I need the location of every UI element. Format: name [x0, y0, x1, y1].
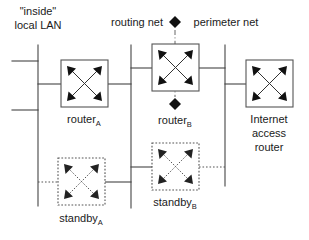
svg-text:routerA: routerA	[67, 113, 101, 128]
standby-b-label: standby	[153, 196, 192, 208]
node-internet-access-router[interactable]: Internet access router	[246, 60, 293, 153]
svg-text:standbyA: standbyA	[59, 212, 103, 227]
node-standby-b[interactable]: standbyB	[152, 143, 199, 211]
svg-text:routerB: routerB	[158, 114, 192, 129]
router-a-label-sub: A	[96, 119, 101, 128]
router-b-label-sub: B	[187, 120, 192, 129]
routing-net-label: routing net	[111, 16, 163, 28]
diamond-marker-bottom-icon	[169, 98, 181, 110]
internet-access-router-label-line2: access	[252, 127, 287, 139]
internet-access-router-label-line3: router	[255, 141, 284, 153]
network-diagram: routerA routerB	[0, 0, 309, 240]
inside-lan-label-line1: "inside"	[20, 5, 57, 17]
internet-access-router-label-line1: Internet	[250, 113, 287, 125]
router-b-label: router	[158, 114, 187, 126]
diagram-canvas: routerA routerB	[0, 0, 309, 240]
standby-b-label-sub: B	[192, 202, 197, 211]
node-router-b[interactable]: routerB	[152, 44, 199, 129]
inside-lan-stubs	[12, 61, 38, 110]
standby-a-label: standby	[59, 212, 98, 224]
router-a-label: router	[67, 113, 96, 125]
perimeter-net-label: perimeter net	[194, 16, 259, 28]
inside-lan-label-line2: local LAN	[14, 19, 61, 31]
standby-a-label-sub: A	[98, 218, 103, 227]
diamond-marker-top-icon	[169, 16, 181, 28]
network-labels: "inside" local LAN routing net perimeter…	[14, 5, 258, 31]
svg-text:standbyB: standbyB	[153, 196, 197, 211]
node-standby-a[interactable]: standbyA	[58, 158, 105, 227]
node-router-a[interactable]: routerA	[61, 60, 108, 128]
